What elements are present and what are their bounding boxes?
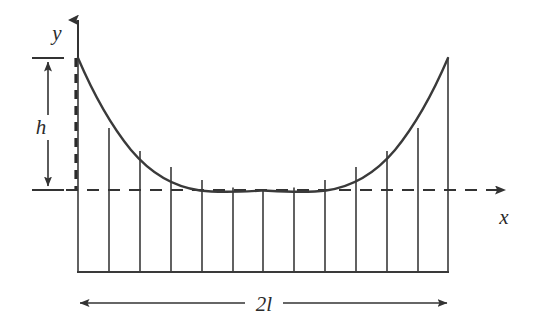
span-label: 2l <box>256 292 273 316</box>
catenary-diagram-svg: h 2l y x <box>0 0 549 330</box>
height-label: h <box>36 115 47 139</box>
y-axis-label: y <box>50 21 62 45</box>
x-axis-label: x <box>498 205 509 229</box>
catenary-figure: h 2l y x <box>0 0 549 330</box>
height-dimension: h <box>32 58 64 190</box>
catenary-curve <box>78 58 448 192</box>
hanger-lines <box>78 58 448 272</box>
span-dimension: 2l <box>80 292 447 316</box>
